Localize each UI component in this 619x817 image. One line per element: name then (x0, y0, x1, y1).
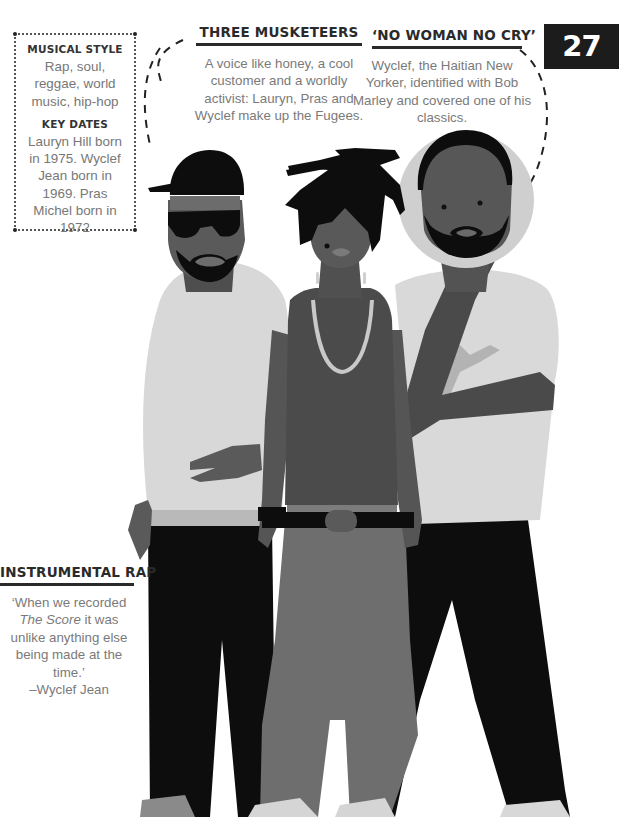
musical-style-text: Rap, soul, reggae, world music, hip-hop (22, 58, 128, 110)
instrumental-rap-quote: ‘When we recorded The Score it was unlik… (4, 594, 134, 698)
figure-lauryn (248, 148, 422, 817)
three-musketeers-heading: THREE MUSKETEERS (196, 24, 362, 46)
quote-part-1: ‘When we recorded (12, 595, 127, 610)
corner-dot (13, 32, 17, 36)
album-title: The Score (19, 612, 80, 627)
corner-dot (133, 32, 137, 36)
three-musketeers-text: A voice like honey, a cool customer and … (190, 55, 368, 125)
instrumental-rap-heading: INSTRUMENTAL RAP (0, 564, 134, 586)
musical-style-heading: MUSICAL STYLE (16, 43, 134, 55)
key-dates-heading: KEY DATES (16, 118, 134, 130)
quote-attribution: –Wyclef Jean (29, 682, 109, 697)
facts-box: MUSICAL STYLE Rap, soul, reggae, world m… (14, 33, 136, 231)
corner-dot (13, 228, 17, 232)
corner-dot (133, 228, 137, 232)
page-number: 27 (544, 24, 619, 69)
no-woman-no-cry-heading: ‘NO WOMAN NO CRY’ (372, 27, 522, 49)
key-dates-text: Lauryn Hill born in 1975. Wyclef Jean bo… (22, 133, 128, 237)
dashed-arc-left (145, 40, 183, 145)
no-woman-no-cry-text: Wyclef, the Haitian New Yorker, identifi… (352, 57, 532, 127)
